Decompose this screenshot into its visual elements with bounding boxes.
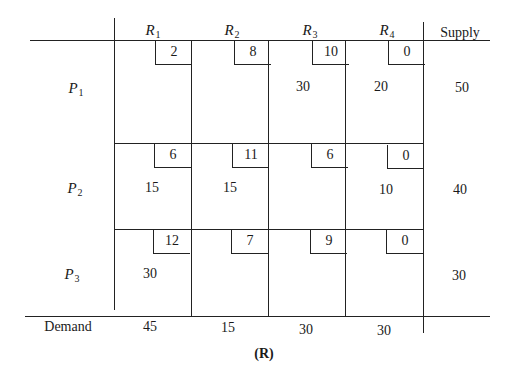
allocation-p2-r2: 15 — [223, 180, 237, 196]
column-header-r3: R3 — [302, 22, 317, 43]
row-header-p2: P2 — [67, 180, 82, 201]
demand-r3: 30 — [299, 322, 313, 338]
cost-p3-r1: 12 — [153, 230, 190, 254]
demand-r2: 15 — [221, 320, 235, 336]
cost-p1-r2: 8 — [234, 41, 271, 65]
supply-p2: 40 — [453, 182, 467, 198]
cost-p3-r3: 9 — [310, 230, 347, 254]
cost-p1-r1: 2 — [155, 41, 192, 65]
cost-p3-r4: 0 — [386, 230, 423, 254]
column-header-r1: R1 — [145, 22, 160, 43]
col-divider-3 — [345, 40, 346, 316]
allocation-p1-r3: 30 — [296, 79, 310, 95]
supply-p3: 30 — [452, 268, 466, 284]
allocation-p2-r1: 15 — [145, 180, 159, 196]
row-header-p1: P1 — [68, 80, 83, 101]
cost-p2-r4: 0 — [387, 145, 424, 169]
cost-p1-r4: 0 — [388, 41, 425, 65]
cost-p2-r3: 6 — [311, 144, 348, 168]
allocation-p1-r4: 20 — [374, 79, 388, 95]
demand-r1: 45 — [143, 319, 157, 335]
column-header-r2: R2 — [224, 22, 239, 43]
figure-caption: (R) — [254, 346, 273, 362]
cost-p3-r2: 7 — [231, 230, 268, 254]
demand-r4: 30 — [377, 323, 391, 339]
supply-p1: 50 — [455, 80, 469, 96]
cost-p2-r2: 11 — [232, 144, 269, 168]
demand-rule — [25, 316, 490, 317]
col-divider-1 — [191, 40, 192, 316]
cost-p1-r3: 10 — [312, 41, 349, 65]
col-divider-2 — [268, 40, 269, 316]
demand-label: Demand — [44, 319, 91, 335]
allocation-p3-r1: 30 — [143, 266, 157, 282]
column-header-r4: R4 — [379, 22, 394, 43]
supply-column-divider — [423, 22, 424, 333]
supply-header: Supply — [440, 25, 480, 41]
label-column-divider — [114, 18, 115, 310]
cost-p2-r1: 6 — [154, 144, 191, 168]
row-header-p3: P3 — [64, 266, 79, 287]
allocation-p2-r4: 10 — [379, 182, 393, 198]
